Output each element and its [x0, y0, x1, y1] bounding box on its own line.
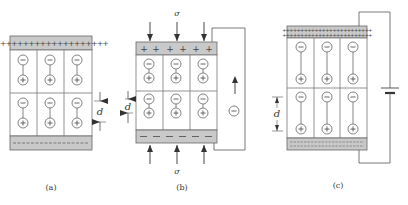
panel-a: ++++++++++++++++++++ d (a) [0, 36, 108, 192]
stress-label-top: σ [174, 9, 180, 18]
caption-a: (a) [45, 183, 56, 192]
svg-text:+: + [179, 44, 187, 54]
dimension-d-label: d [274, 108, 280, 119]
bottom-plate [136, 130, 217, 143]
bottom-plate [287, 138, 367, 150]
dimension-d-label: d [97, 106, 103, 117]
svg-text:+: + [192, 44, 200, 54]
plate-charges-positive: ++++++++++++++++++++ [0, 39, 108, 48]
svg-text:+++++++++++++++++++++++++: +++++++++++++++++++++++++ [282, 32, 372, 38]
svg-text:+: + [205, 44, 213, 54]
svg-text:+: + [140, 44, 148, 54]
caption-b: (b) [176, 183, 187, 192]
svg-text:+: + [152, 44, 160, 54]
panel-c: +++++++++++++++++++++++++ ++++++++++++++… [272, 12, 399, 190]
stress-label-bottom: σ [174, 167, 180, 176]
dimension-d-label: d [125, 101, 131, 112]
piezoelectric-diagram: ++++++++++++++++++++ d (a) σ +++ +++ [0, 0, 408, 205]
caption-c: (c) [333, 181, 344, 190]
svg-text:+: + [166, 44, 174, 54]
panel-b: σ +++ +++ σ [125, 9, 245, 192]
